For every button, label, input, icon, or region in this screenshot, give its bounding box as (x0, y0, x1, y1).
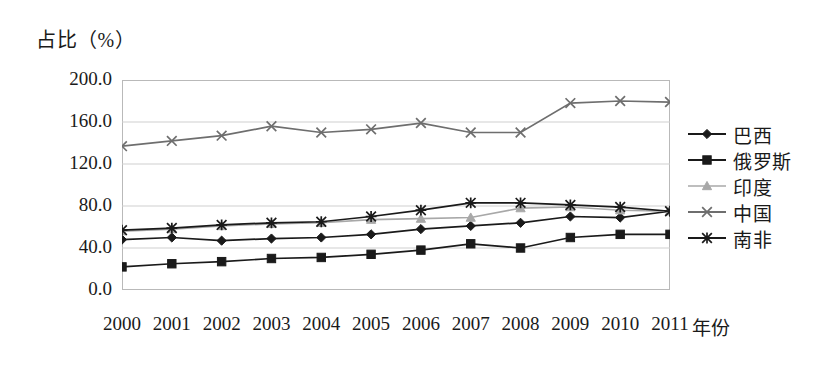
data-point-marker (317, 233, 326, 242)
data-point-marker (465, 197, 476, 208)
x-tick-label: 2003 (243, 313, 299, 335)
asterisk-icon (686, 227, 728, 249)
series-2 (122, 202, 670, 234)
x-icon (686, 201, 728, 223)
chart-legend: 巴西俄罗斯印度中国南非 (686, 121, 826, 251)
diamond-icon (686, 123, 728, 145)
data-point-marker (702, 233, 713, 244)
chart-figure: 占比（%） 0.040.080.0120.0160.0200.0 2000200… (0, 0, 831, 373)
legend-label: 俄罗斯 (733, 147, 792, 174)
data-point-marker (366, 230, 375, 239)
y-tick-label: 40.0 (26, 236, 112, 258)
y-tick-label: 80.0 (26, 194, 112, 216)
data-point-marker (417, 246, 425, 254)
legend-label: 印度 (733, 173, 772, 200)
data-point-marker (415, 205, 426, 216)
data-point-marker (703, 156, 711, 164)
data-point-marker (665, 206, 670, 217)
data-point-marker (366, 211, 377, 222)
data-point-marker (122, 225, 127, 236)
data-point-marker (316, 216, 327, 227)
x-tick-label: 2005 (343, 313, 399, 335)
x-tick-label: 2006 (393, 313, 449, 335)
y-tick-label: 160.0 (26, 110, 112, 132)
data-point-marker (367, 250, 375, 258)
data-point-marker (317, 253, 325, 261)
x-tick-label: 2011 (642, 313, 698, 335)
data-point-marker (565, 200, 576, 211)
data-point-marker (666, 230, 670, 238)
legend-item-中国[interactable]: 中国 (686, 199, 826, 225)
y-tick-label: 0.0 (26, 278, 112, 300)
triangle-icon (686, 175, 728, 197)
series-3 (122, 96, 670, 151)
data-point-marker (466, 221, 475, 230)
y-tick-label: 120.0 (26, 152, 112, 174)
plot-border (123, 81, 670, 290)
legend-item-印度[interactable]: 印度 (686, 173, 826, 199)
data-point-marker (267, 234, 276, 243)
series-line (122, 207, 670, 231)
y-axis-title: 占比（%） (36, 24, 135, 53)
x-tick-label: 2001 (144, 313, 200, 335)
legend-item-南非[interactable]: 南非 (686, 225, 826, 251)
data-point-marker (515, 197, 526, 208)
data-point-marker (217, 236, 226, 245)
x-tick-label: 2007 (443, 313, 499, 335)
data-point-marker (467, 240, 475, 248)
data-point-marker (566, 212, 575, 221)
series-line (122, 101, 670, 146)
data-point-marker (416, 225, 425, 234)
data-point-marker (122, 235, 127, 244)
data-point-marker (266, 217, 277, 228)
x-tick-label: 2010 (592, 313, 648, 335)
x-axis-title: 年份 (692, 313, 730, 340)
series-1 (122, 230, 670, 271)
legend-label: 南非 (733, 225, 772, 252)
legend-item-巴西[interactable]: 巴西 (686, 121, 826, 147)
data-point-marker (122, 263, 126, 271)
legend-item-俄罗斯[interactable]: 俄罗斯 (686, 147, 826, 173)
legend-label: 巴西 (733, 121, 772, 148)
data-point-marker (267, 254, 275, 262)
legend-label: 中国 (733, 199, 772, 226)
data-point-marker (616, 230, 624, 238)
plot-canvas (122, 80, 670, 290)
x-tick-label: 2009 (542, 313, 598, 335)
y-tick-label: 200.0 (26, 68, 112, 90)
data-point-marker (167, 233, 176, 242)
x-tick-label: 2004 (293, 313, 349, 335)
data-point-marker (516, 244, 524, 252)
data-point-marker (566, 233, 574, 241)
data-point-marker (615, 202, 626, 213)
data-point-marker (516, 218, 525, 227)
x-tick-label: 2008 (493, 313, 549, 335)
data-point-marker (216, 219, 227, 230)
data-point-marker (217, 257, 225, 265)
data-point-marker (166, 223, 177, 234)
data-point-marker (168, 260, 176, 268)
plot-area (122, 80, 670, 290)
x-tick-label: 2000 (94, 313, 150, 335)
x-tick-label: 2002 (194, 313, 250, 335)
data-point-marker (702, 129, 711, 138)
square-icon (686, 149, 728, 171)
